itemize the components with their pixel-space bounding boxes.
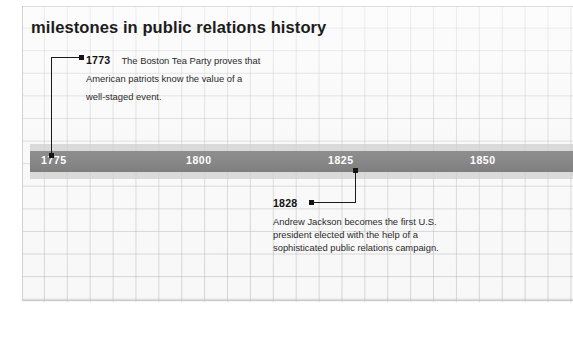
callout-marker-1773: [79, 55, 84, 60]
timeline-year-1825: 1825: [328, 154, 354, 166]
timeline-marker-1828: [353, 168, 358, 173]
callout-1828: 1828 Andrew Jackson becomes the first U.…: [273, 193, 463, 255]
timeline-year-1850: 1850: [470, 154, 496, 166]
callout-marker-1828: [309, 200, 314, 205]
grid-bottom-border: [22, 300, 573, 301]
callout-1828-year-row: 1828: [273, 193, 463, 211]
timeline-infographic: milestones in public relations history 1…: [0, 0, 573, 338]
callout-1828-year: 1828: [273, 197, 297, 209]
callout-1828-text: Andrew Jackson becomes the first U.S. pr…: [273, 215, 463, 255]
connector-1773-vertical: [51, 57, 52, 155]
connector-1773-horizontal: [51, 57, 80, 58]
callout-1773: 1773 The Boston Tea Party proves that Am…: [86, 50, 264, 104]
timeline-bar-halo-bottom: [30, 172, 573, 179]
timeline-marker-1773: [49, 153, 54, 158]
grid-left-border: [22, 6, 23, 301]
grid-top-border: [22, 6, 573, 7]
timeline-year-1800: 1800: [186, 154, 212, 166]
page-title: milestones in public relations history: [31, 18, 326, 37]
timeline-bar-halo-top: [30, 144, 573, 151]
callout-1773-year: 1773: [86, 54, 121, 66]
